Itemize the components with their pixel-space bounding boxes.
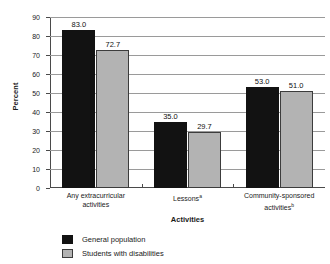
- y-axis-tick-label: 60: [32, 71, 40, 78]
- plot-area: 0102030405060708090 83.072.735.029.753.0…: [50, 17, 325, 188]
- bar: 83.0: [62, 30, 95, 188]
- y-axis-tick-label: 0: [36, 185, 40, 192]
- y-axis-tick: 30: [46, 131, 50, 132]
- legend-item[interactable]: Students with disabilities: [62, 246, 164, 260]
- gridline: [50, 17, 325, 18]
- legend-swatch: [62, 235, 73, 244]
- bar-value-label: 83.0: [72, 20, 87, 29]
- y-axis-tick: 50: [46, 93, 50, 94]
- y-axis-title: Percent: [11, 62, 20, 132]
- chart-title: [18, 0, 318, 4]
- y-axis-tick-label: 10: [32, 166, 40, 173]
- y-axis-tick-label: 90: [32, 14, 40, 21]
- bar: 51.0: [280, 91, 313, 188]
- x-axis-category-label: Any extracurricularactivities: [50, 192, 142, 209]
- y-axis-line: [50, 17, 51, 188]
- x-axis-category-label: Lessonsa: [142, 192, 234, 204]
- y-axis-tick-label: 40: [32, 109, 40, 116]
- x-axis-separator-tick: [233, 184, 234, 188]
- y-axis-tick-label: 50: [32, 90, 40, 97]
- footnote-marker: a: [199, 193, 202, 199]
- y-axis-tick-label: 80: [32, 33, 40, 40]
- y-axis-tick: 20: [46, 150, 50, 151]
- bar-value-label: 53.0: [255, 77, 270, 86]
- y-axis-tick: 10: [46, 169, 50, 170]
- chart-legend: General populationStudents with disabili…: [62, 232, 164, 260]
- legend-item[interactable]: General population: [62, 232, 164, 246]
- y-axis-tick: 90: [46, 17, 50, 18]
- bar-value-label: 29.7: [197, 122, 212, 131]
- bar-value-label: 72.7: [106, 40, 121, 49]
- bar: 35.0: [154, 122, 187, 189]
- bar-value-label: 51.0: [289, 81, 304, 90]
- y-axis-tick: 40: [46, 112, 50, 113]
- y-axis-tick-label: 30: [32, 128, 40, 135]
- y-axis-tick: 0: [46, 188, 50, 189]
- bar: 72.7: [96, 50, 129, 188]
- x-axis-title: Activities: [50, 215, 325, 224]
- bar: 53.0: [246, 87, 279, 188]
- y-axis-tick-label: 20: [32, 147, 40, 154]
- x-axis-category-label: Community-sponsoredactivitiesb: [233, 192, 325, 212]
- x-axis-separator-tick: [142, 184, 143, 188]
- footnote-marker: b: [291, 202, 294, 208]
- legend-label: General population: [82, 235, 145, 244]
- legend-swatch: [62, 249, 73, 258]
- legend-label: Students with disabilities: [82, 249, 164, 258]
- y-axis-tick: 60: [46, 74, 50, 75]
- y-axis-tick: 70: [46, 55, 50, 56]
- y-axis-tick-label: 70: [32, 52, 40, 59]
- bar-chart-figure: Percent 0102030405060708090 83.072.735.0…: [0, 0, 330, 264]
- bar-value-label: 35.0: [163, 112, 178, 121]
- y-axis-tick: 80: [46, 36, 50, 37]
- bar: 29.7: [188, 132, 221, 188]
